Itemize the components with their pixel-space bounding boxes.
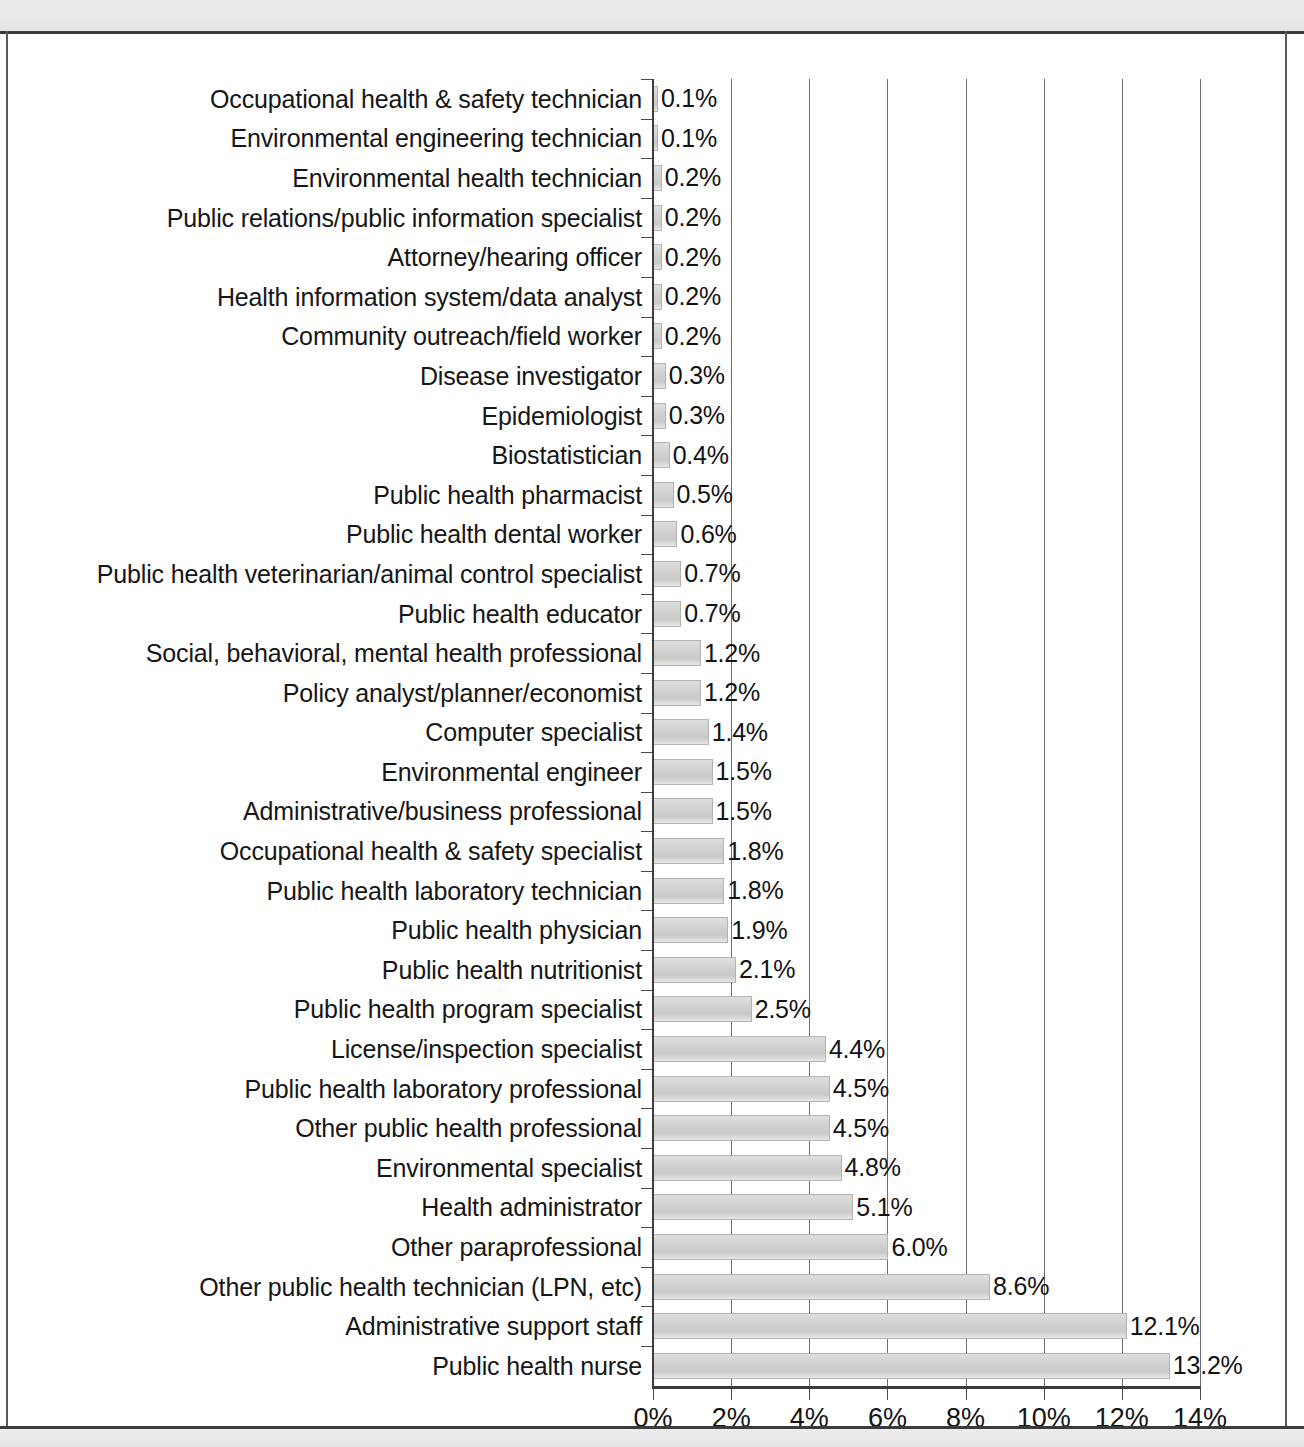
category-tick: [641, 1306, 652, 1307]
category-tick: [641, 396, 652, 397]
category-tick: [641, 831, 652, 832]
bar-with-label: 1.5%: [654, 759, 772, 785]
bar-value-label: 0.5%: [677, 482, 733, 507]
bar: [654, 125, 658, 151]
bar-row: Administrative support staff12.1%: [0, 1306, 1304, 1346]
bar-row: Occupational health & safety specialist1…: [0, 831, 1304, 871]
bar-value-label: 0.1%: [661, 86, 717, 111]
category-tick: [641, 910, 652, 911]
category-tick: [641, 633, 652, 634]
category-tick: [641, 1267, 652, 1268]
category-tick: [641, 1188, 652, 1189]
bar-row: Public health dental worker0.6%: [0, 515, 1304, 555]
x-axis-tick: [887, 1389, 888, 1400]
x-axis-baseline: [652, 1386, 1201, 1389]
bar-row: License/inspection specialist4.4%: [0, 1029, 1304, 1069]
bar: [654, 244, 662, 270]
bar: [654, 680, 701, 706]
category-label: Public health educator: [22, 600, 642, 628]
bar: [654, 482, 674, 508]
category-tick: [641, 237, 652, 238]
bar-value-label: 0.6%: [680, 522, 736, 547]
bar-with-label: 1.2%: [654, 640, 760, 666]
bar-with-label: 1.8%: [654, 878, 784, 904]
category-label: License/inspection specialist: [22, 1035, 642, 1063]
bar-value-label: 0.4%: [673, 443, 729, 468]
category-tick: [641, 119, 652, 120]
scan-band-bottom: [0, 1429, 1304, 1447]
bar-value-label: 0.2%: [665, 324, 721, 349]
x-axis-tick: [653, 1389, 654, 1400]
bar-row: Environmental specialist4.8%: [0, 1148, 1304, 1188]
bar-with-label: 0.2%: [654, 205, 721, 231]
category-tick: [641, 1069, 652, 1070]
category-label: Computer specialist: [22, 718, 642, 746]
category-tick: [641, 1148, 652, 1149]
bar-with-label: 1.9%: [654, 917, 787, 943]
bar-row: Other public health technician (LPN, etc…: [0, 1267, 1304, 1307]
category-tick: [641, 158, 652, 159]
bar-value-label: 1.5%: [716, 799, 772, 824]
horizontal-bar-chart: Occupational health & safety technician0…: [0, 34, 1304, 1424]
bar-value-label: 4.5%: [833, 1076, 889, 1101]
bar: [654, 442, 670, 468]
category-label: Attorney/hearing officer: [22, 243, 642, 271]
bar: [654, 957, 736, 983]
bar: [654, 1313, 1127, 1339]
bar-value-label: 1.8%: [727, 878, 783, 903]
bar-row: Public health pharmacist0.5%: [0, 475, 1304, 515]
bar-with-label: 0.3%: [654, 363, 725, 389]
category-label: Health information system/data analyst: [22, 283, 642, 311]
category-label: Policy analyst/planner/economist: [22, 679, 642, 707]
bar: [654, 1155, 842, 1181]
bar-rows: Occupational health & safety technician0…: [0, 79, 1304, 1386]
bar-value-label: 1.8%: [727, 839, 783, 864]
category-tick: [641, 515, 652, 516]
bar-value-label: 0.2%: [665, 284, 721, 309]
bar-value-label: 8.6%: [993, 1274, 1049, 1299]
category-tick: [641, 1029, 652, 1030]
bar-value-label: 4.8%: [845, 1155, 901, 1180]
x-axis-tick: [1200, 1389, 1201, 1400]
bar: [654, 601, 681, 627]
bar-with-label: 0.6%: [654, 521, 737, 547]
category-tick: [641, 752, 652, 753]
bar: [654, 521, 677, 547]
category-label: Public health laboratory professional: [22, 1075, 642, 1103]
category-label: Public health physician: [22, 916, 642, 944]
bar-row: Disease investigator0.3%: [0, 356, 1304, 396]
bar-with-label: 1.5%: [654, 798, 772, 824]
bar-row: Computer specialist1.4%: [0, 713, 1304, 753]
category-tick: [641, 594, 652, 595]
category-tick: [641, 713, 652, 714]
bar-with-label: 8.6%: [654, 1274, 1049, 1300]
bar-value-label: 5.1%: [856, 1195, 912, 1220]
bar: [654, 165, 662, 191]
bar-row: Environmental health technician0.2%: [0, 158, 1304, 198]
category-tick: [641, 475, 652, 476]
category-tick: [641, 317, 652, 318]
category-label: Administrative/business professional: [22, 797, 642, 825]
category-tick: [641, 990, 652, 991]
bar-value-label: 0.7%: [684, 561, 740, 586]
category-label: Public relations/public information spec…: [22, 204, 642, 232]
bar-row: Public health physician1.9%: [0, 910, 1304, 950]
bar-with-label: 0.2%: [654, 323, 721, 349]
bar: [654, 917, 728, 943]
bar-with-label: 0.1%: [654, 86, 717, 112]
bar: [654, 878, 724, 904]
bar-value-label: 0.2%: [665, 165, 721, 190]
category-label: Occupational health & safety technician: [22, 85, 642, 113]
bar-with-label: 4.5%: [654, 1076, 889, 1102]
bar: [654, 1076, 830, 1102]
bar: [654, 363, 666, 389]
bar-value-label: 2.1%: [739, 957, 795, 982]
category-label: Environmental engineer: [22, 758, 642, 786]
category-label: Other public health professional: [22, 1114, 642, 1142]
bar: [654, 403, 666, 429]
bar-row: Environmental engineering technician0.1%: [0, 119, 1304, 159]
bar-value-label: 1.4%: [712, 720, 768, 745]
category-label: Environmental specialist: [22, 1154, 642, 1182]
category-tick: [641, 871, 652, 872]
bar: [654, 284, 662, 310]
